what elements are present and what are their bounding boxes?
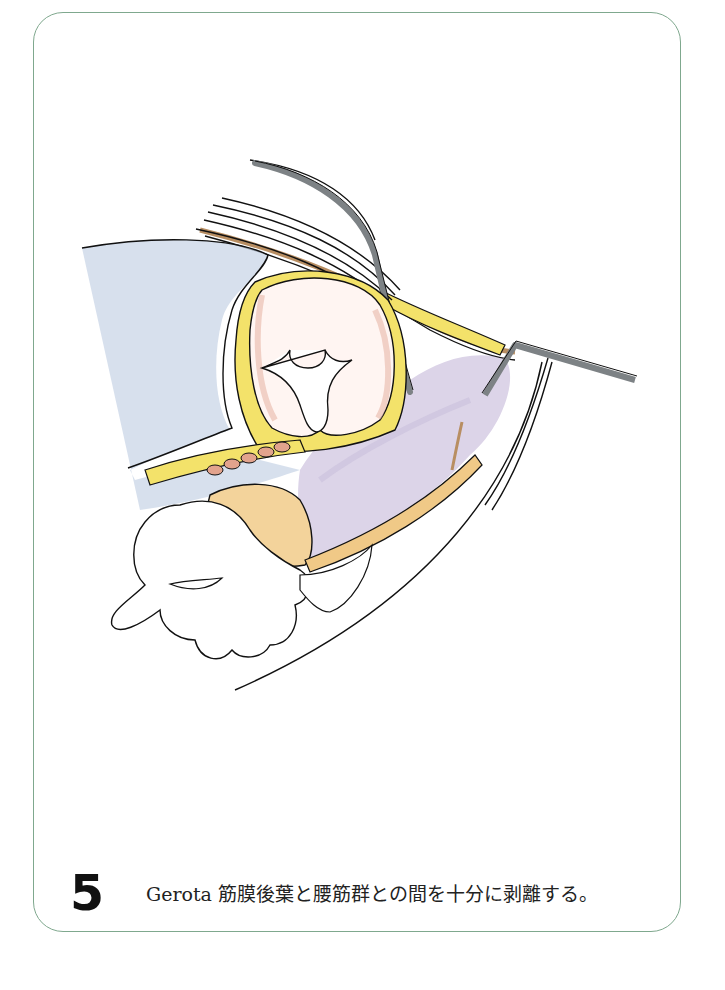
figure-caption: Gerota 筋膜後葉と腰筋群との間を十分に剥離する。 xyxy=(146,880,598,908)
surgical-illustration xyxy=(0,0,725,990)
step-number: 5 xyxy=(70,866,103,922)
